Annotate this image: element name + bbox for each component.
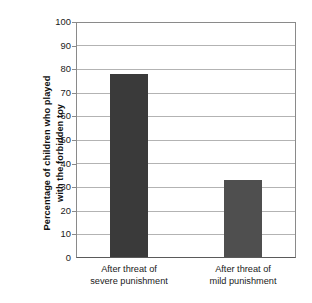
x-axis-label-severe-punishment: After threat of severe punishment <box>64 263 194 288</box>
y-tick-label-0: 0 <box>31 253 71 263</box>
y-tick-label-80: 80 <box>31 64 71 74</box>
plot-area <box>76 22 296 258</box>
bar-mild-punishment <box>224 180 262 257</box>
y-tick-label-90: 90 <box>31 41 71 51</box>
y-tick-label-70: 70 <box>31 88 71 98</box>
gridline-80 <box>77 69 295 70</box>
y-tick-label-30: 30 <box>31 182 71 192</box>
x-axis-label-severe-line-1: After threat of <box>64 263 194 275</box>
x-axis-label-severe-line-2: severe punishment <box>64 275 194 287</box>
bar-severe-punishment <box>110 74 148 257</box>
y-tick-label-100: 100 <box>31 17 71 27</box>
y-tick-label-40: 40 <box>31 159 71 169</box>
y-tick-label-10: 10 <box>31 229 71 239</box>
x-axis-label-mild-punishment: After threat of mild punishment <box>178 263 308 288</box>
y-tick-label-20: 20 <box>31 206 71 216</box>
x-axis-label-mild-line-1: After threat of <box>178 263 308 275</box>
y-tick-label-60: 60 <box>31 111 71 121</box>
bar-chart-figure: Percentage of children who played with t… <box>0 0 312 303</box>
x-axis-label-mild-line-2: mild punishment <box>178 275 308 287</box>
y-tick-label-50: 50 <box>31 135 71 145</box>
gridline-90 <box>77 45 295 46</box>
